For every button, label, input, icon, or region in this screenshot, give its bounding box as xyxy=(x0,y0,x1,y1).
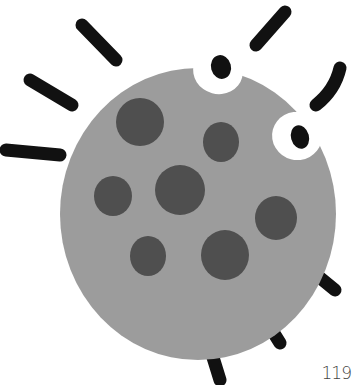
page-number: 119 xyxy=(322,363,351,383)
germ-illustration xyxy=(0,0,357,385)
